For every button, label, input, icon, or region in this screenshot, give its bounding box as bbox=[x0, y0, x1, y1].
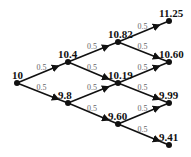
node-value-label: 10.82 bbox=[108, 28, 133, 40]
node-value-label: 9.60 bbox=[108, 110, 128, 122]
edge-probability-label: 0.5 bbox=[87, 42, 97, 51]
node-value-label: 10.19 bbox=[108, 69, 133, 81]
binomial-tree-diagram: 0.50.50.50.50.50.50.50.50.50.50.50.5 101… bbox=[0, 0, 191, 157]
edge-probability-label: 0.5 bbox=[37, 63, 47, 72]
node-value-label: 10.60 bbox=[159, 48, 184, 60]
edge-probability-label: 0.5 bbox=[37, 83, 47, 92]
edge-probability-label: 0.5 bbox=[138, 125, 148, 134]
edge-probability-label: 0.5 bbox=[87, 83, 97, 92]
edge-probability-label: 0.5 bbox=[138, 63, 148, 72]
node-value-label: 10 bbox=[12, 69, 24, 81]
edge-probability-label: 0.5 bbox=[87, 104, 97, 113]
edge-probability-label: 0.5 bbox=[138, 104, 148, 113]
node-value-label: 11.25 bbox=[159, 7, 184, 19]
edge-probability-label: 0.5 bbox=[87, 63, 97, 72]
edge-probability-label: 0.5 bbox=[138, 22, 148, 31]
node-value-label: 9.99 bbox=[159, 89, 179, 101]
edge-probability-label: 0.5 bbox=[138, 83, 148, 92]
node-value-label: 10.4 bbox=[58, 48, 78, 60]
node-value-label: 9.41 bbox=[159, 131, 178, 143]
edge-probability-label: 0.5 bbox=[138, 42, 148, 51]
node-value-label: 9.8 bbox=[58, 89, 72, 101]
